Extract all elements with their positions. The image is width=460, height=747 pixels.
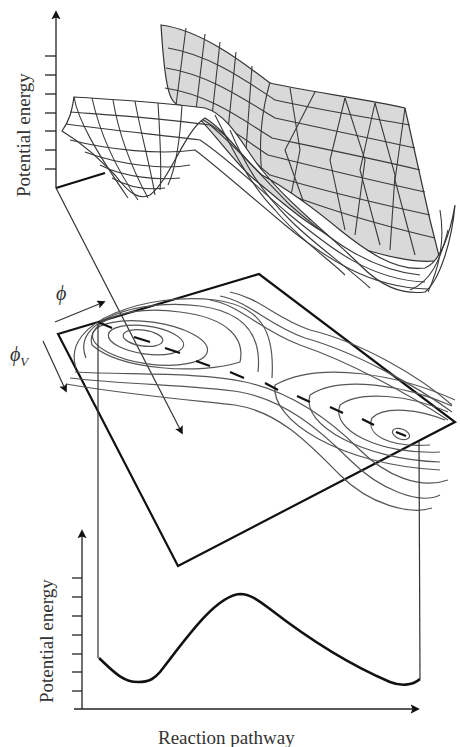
surface-back-sheet bbox=[161, 25, 440, 261]
phi-v-axis-arrow bbox=[43, 341, 66, 391]
phi-label: ϕ bbox=[56, 282, 66, 305]
saddle-contours bbox=[66, 292, 452, 510]
top-y-axis-label: Potential energy bbox=[13, 73, 34, 197]
reaction-path-dashes bbox=[98, 322, 406, 436]
top-3d-surface-plot: Potential energy bbox=[13, 12, 455, 293]
phi-v-label: ϕV bbox=[10, 343, 30, 369]
potential-energy-diagram: Potential energy bbox=[0, 0, 460, 747]
energy-profile-curve bbox=[99, 594, 420, 685]
bottom-energy-profile-plot: Potential energy Reaction pathway bbox=[36, 531, 420, 747]
phi-axis-arrow bbox=[55, 302, 104, 322]
contour-plane: ϕ ϕV bbox=[10, 274, 455, 566]
bottom-y-axis-label: Potential energy bbox=[36, 579, 57, 703]
right-projection-line bbox=[419, 441, 420, 679]
left-basin-contours bbox=[74, 299, 272, 378]
top-y-axis-ticks bbox=[45, 56, 56, 169]
bottom-x-axis-label: Reaction pathway bbox=[158, 727, 295, 747]
top-x-axis-stub bbox=[56, 173, 105, 188]
bottom-y-axis-ticks bbox=[72, 578, 82, 691]
